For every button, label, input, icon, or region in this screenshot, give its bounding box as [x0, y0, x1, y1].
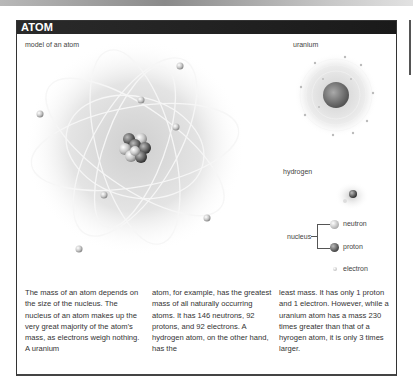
page-top-strip [0, 0, 413, 6]
electron-sphere-icon [333, 267, 337, 271]
body-text-column-3: least mass. It has only 1 proton and 1 e… [279, 287, 397, 355]
hydrogen-atom-illustration [335, 181, 369, 211]
proton-sphere-icon [330, 243, 339, 252]
body-text-column-2: atom, for example, has the greatest mass… [152, 287, 272, 355]
legend-item-proton: proton [343, 243, 363, 250]
uranium-atom-illustration [293, 49, 379, 137]
body-text-column-1: The mass of an atom depends on the size … [25, 287, 145, 355]
legend-group-label: nucleus [287, 233, 311, 240]
uranium-caption: uranium [293, 41, 318, 48]
legend-item-electron: electron [343, 265, 368, 272]
hydrogen-caption: hydrogen [283, 168, 312, 175]
page-edge-marker [409, 20, 411, 75]
legend-bracket-stem [311, 236, 317, 237]
panel-title: ATOM [17, 21, 396, 34]
legend-item-neutron: neutron [343, 220, 367, 227]
atom-model-illustration [17, 35, 267, 280]
atom-panel: ATOM model of an atom [16, 20, 397, 376]
legend-bracket [317, 224, 330, 249]
neutron-sphere-icon [330, 220, 339, 229]
